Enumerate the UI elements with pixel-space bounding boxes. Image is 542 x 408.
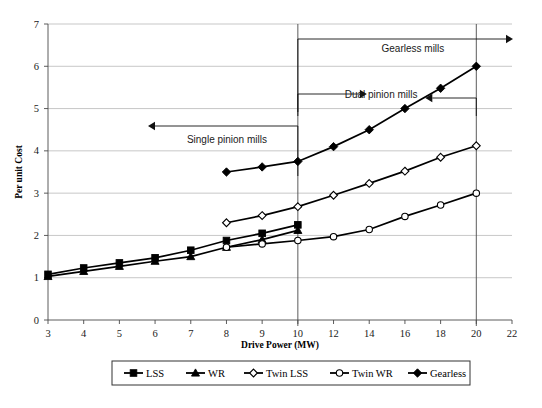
data-point-18 — [437, 202, 443, 208]
x-tick-label-14: 14 — [364, 328, 375, 339]
legend-label: Twin WR — [352, 368, 393, 379]
gridlines — [48, 24, 512, 278]
data-point-16 — [401, 104, 409, 112]
data-point-8 — [223, 244, 229, 250]
x-tick-label-16: 16 — [400, 328, 411, 339]
y-axis-tick-labels: 01234567 — [34, 19, 40, 326]
x-tick-label-4: 4 — [81, 328, 87, 339]
data-point-16 — [401, 167, 409, 175]
data-point-8 — [223, 219, 231, 227]
data-point-12 — [329, 142, 337, 150]
gearless-mills-arrow — [506, 35, 513, 43]
y-tick-label-1: 1 — [34, 272, 39, 283]
x-tick-label-20: 20 — [471, 328, 482, 339]
dual-pinion-mills-bracket-right — [432, 98, 476, 116]
y-axis-title: Per unit Cost — [14, 144, 24, 198]
data-point-20 — [472, 62, 480, 70]
x-tick-label-22: 22 — [507, 328, 518, 339]
x-tick-label-7: 7 — [188, 328, 193, 339]
data-point-14 — [366, 226, 372, 232]
single-pinion-mills-arrow — [148, 122, 155, 130]
legend-item-twin-lss[interactable]: Twin LSS — [244, 368, 308, 379]
x-axis-title: Drive Power (MW) — [241, 340, 319, 351]
gearless-mills-label: Gearless mills — [382, 43, 445, 54]
legend-label: WR — [208, 368, 225, 379]
x-tick-label-6: 6 — [152, 328, 157, 339]
y-tick-label-5: 5 — [34, 103, 39, 114]
series-twin-lss — [223, 142, 481, 227]
x-tick-label-12: 12 — [328, 328, 339, 339]
data-point-12 — [330, 191, 338, 199]
y-tick-label-4: 4 — [34, 145, 40, 156]
y-tick-label-6: 6 — [34, 61, 39, 72]
legend-label: LSS — [146, 368, 164, 379]
legend-marker-open-circle — [336, 370, 342, 376]
line-chart: 01234567 345678910121416182022 Gearless … — [0, 0, 542, 408]
series-twin-wr — [223, 190, 479, 251]
data-point-16 — [402, 213, 408, 219]
y-tick-label-0: 0 — [34, 315, 39, 326]
y-tick-label-7: 7 — [34, 19, 39, 30]
legend: LSSWRTwin LSSTwin WRGearless — [112, 361, 470, 385]
data-point-8 — [222, 168, 230, 176]
x-tick-label-9: 9 — [260, 328, 265, 339]
data-point-20 — [473, 190, 479, 196]
x-tick-label-3: 3 — [45, 328, 50, 339]
axis-lines — [44, 24, 512, 326]
data-point-18 — [436, 84, 444, 92]
y-tick-label-3: 3 — [34, 188, 39, 199]
annotation-brackets: Gearless millsDual pinion millsSingle pi… — [148, 35, 513, 176]
x-tick-label-8: 8 — [224, 328, 229, 339]
data-point-9 — [258, 163, 266, 171]
data-point-14 — [365, 180, 373, 188]
data-point-20 — [472, 142, 480, 150]
x-axis-tick-labels: 345678910121416182022 — [45, 328, 517, 339]
legend-marker-filled-square — [130, 370, 137, 377]
data-point-10 — [294, 203, 302, 211]
data-point-10 — [295, 237, 301, 243]
chart-container: 01234567 345678910121416182022 Gearless … — [0, 0, 542, 408]
x-tick-label-5: 5 — [117, 328, 122, 339]
legend-label: Twin LSS — [266, 368, 308, 379]
data-point-12 — [330, 233, 336, 239]
data-point-14 — [365, 126, 373, 134]
data-point-18 — [437, 153, 445, 161]
data-point-9 — [258, 212, 266, 220]
x-tick-label-10: 10 — [293, 328, 304, 339]
y-tick-label-2: 2 — [34, 230, 39, 241]
dual-pinion-mills-label: Dual pinion mills — [345, 89, 418, 100]
legend-label: Gearless — [430, 368, 466, 379]
data-point-9 — [259, 241, 265, 247]
data-point-10 — [294, 157, 302, 165]
x-tick-label-18: 18 — [435, 328, 446, 339]
single-pinion-mills-label: Single pinion mills — [187, 134, 267, 145]
